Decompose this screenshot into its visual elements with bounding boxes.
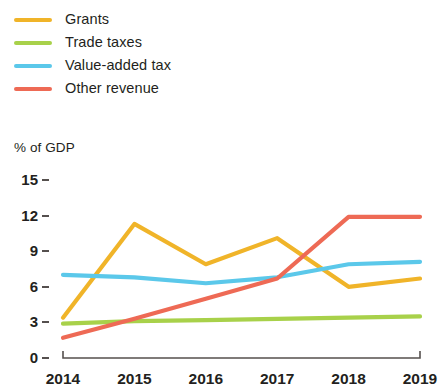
y-tick-mark-9 xyxy=(42,250,49,252)
y-tick-label-0: 0 xyxy=(8,349,38,366)
y-tick-mark-3 xyxy=(42,321,49,323)
y-tick-mark-15 xyxy=(42,179,49,181)
x-tick-label-2019: 2019 xyxy=(390,370,442,388)
axis-lines xyxy=(63,351,420,358)
x-tick-label-2014: 2014 xyxy=(33,370,93,388)
x-tick-label-2018: 2018 xyxy=(319,370,379,388)
series-lines xyxy=(63,217,420,338)
y-tick-mark-12 xyxy=(42,215,49,217)
x-tick-label-2017: 2017 xyxy=(247,370,307,388)
x-tick-label-2015: 2015 xyxy=(104,370,164,388)
y-tick-label-3: 3 xyxy=(8,313,38,330)
y-tick-mark-6 xyxy=(42,286,49,288)
series-line-grants xyxy=(63,224,420,318)
y-tick-label-12: 12 xyxy=(8,207,38,224)
y-tick-label-6: 6 xyxy=(8,278,38,295)
series-line-value-added-tax xyxy=(63,262,420,283)
y-tick-mark-0 xyxy=(42,357,49,359)
y-tick-label-15: 15 xyxy=(8,171,38,188)
y-tick-label-9: 9 xyxy=(8,242,38,259)
x-axis-line xyxy=(63,351,420,358)
x-tick-label-2016: 2016 xyxy=(176,370,236,388)
